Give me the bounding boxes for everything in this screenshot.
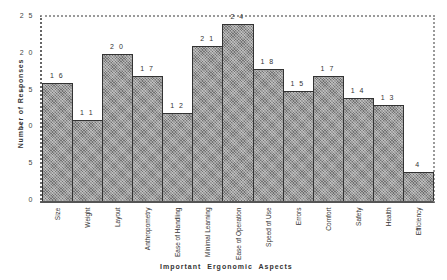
bar — [162, 113, 193, 201]
bar — [373, 105, 404, 201]
x-tick-label: Health — [384, 208, 391, 280]
bar — [343, 98, 374, 201]
y-axis-title: Number of Responses — [17, 54, 24, 154]
bar-value-label: 1 1 — [72, 109, 102, 116]
x-axis-title: Important Ergonomic Aspects — [160, 263, 293, 270]
bar — [192, 46, 223, 201]
bar-value-label: 2 1 — [192, 35, 222, 42]
bar — [42, 83, 73, 201]
bar — [403, 172, 434, 201]
bar-value-label: 1 6 — [42, 72, 72, 79]
bar-value-label: 1 8 — [253, 58, 283, 65]
bar — [313, 76, 344, 201]
bar-value-label: 1 7 — [313, 65, 343, 72]
bar-value-label: 2 4 — [223, 13, 253, 20]
bar-value-label: 1 7 — [132, 65, 162, 72]
x-tick-label: Size — [54, 208, 61, 280]
bar-value-label: 1 3 — [373, 94, 403, 101]
bar-value-label: 1 4 — [343, 87, 373, 94]
x-tick-label: Efficiency — [414, 208, 421, 280]
x-tick-label: Comfort — [324, 208, 331, 280]
bar — [102, 54, 133, 201]
y-tick-label: 0 — [18, 196, 34, 203]
x-tick-label: Errors — [294, 208, 301, 280]
bar — [283, 91, 314, 201]
bar-value-label: 2 0 — [102, 43, 132, 50]
x-tick-label: Anthropometry — [144, 208, 151, 280]
bar-value-label: 4 — [403, 161, 433, 168]
x-tick-label: Weight — [84, 208, 91, 280]
bar — [132, 76, 163, 201]
x-tick-label: Layout — [114, 208, 121, 280]
bar — [72, 120, 103, 201]
bar-value-label: 1 5 — [283, 80, 313, 87]
bar — [253, 69, 284, 201]
y-tick-label: 2 5 — [18, 12, 34, 19]
bar — [222, 24, 253, 201]
x-tick-label: Safety — [354, 208, 361, 280]
bar-value-label: 1 2 — [162, 102, 192, 109]
y-tick-label: 5 — [18, 159, 34, 166]
